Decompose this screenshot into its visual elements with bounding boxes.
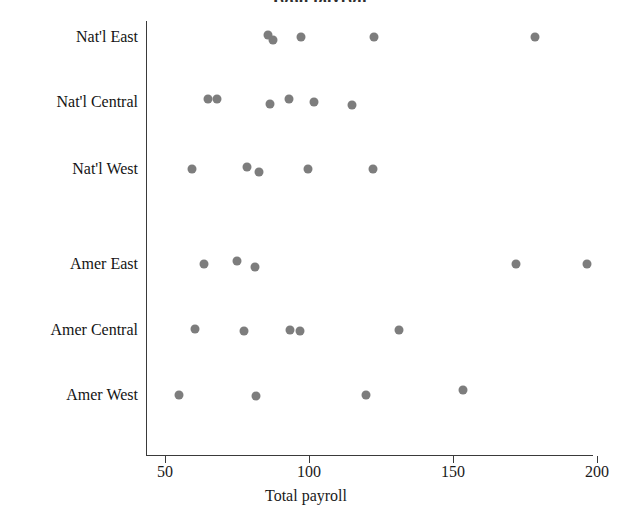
x-axis-title: Total payroll [0, 487, 637, 505]
y-axis-label-1: Nat'l Central [8, 93, 138, 111]
y-axis-label-0: Nat'l East [8, 28, 138, 46]
y-axis-label-2: Nat'l West [8, 160, 138, 178]
data-point [252, 392, 261, 401]
y-axis-label-4: Amer Central [8, 321, 138, 339]
data-point [459, 386, 468, 395]
data-point [347, 101, 356, 110]
y-axis-label-5: Amer West [8, 386, 138, 404]
data-point [284, 95, 293, 104]
data-point [395, 326, 404, 335]
x-tick-label-50: 50 [157, 463, 173, 481]
data-point [512, 260, 521, 269]
data-point [255, 168, 264, 177]
data-point [296, 33, 305, 42]
data-point [251, 263, 260, 272]
x-axis-line [146, 455, 593, 456]
data-point [583, 260, 592, 269]
x-tick-150 [453, 456, 454, 463]
data-point [362, 391, 371, 400]
data-point [530, 33, 539, 42]
data-point [242, 163, 251, 172]
x-tick-label-150: 150 [441, 463, 465, 481]
x-tick-100 [309, 456, 310, 463]
data-point [190, 325, 199, 334]
y-axis-label-3: Amer East [8, 255, 138, 273]
plot-area [147, 21, 593, 455]
data-point [285, 326, 294, 335]
y-axis-category-labels: Nat'l EastNat'l CentralNat'l WestAmer Ea… [0, 0, 138, 519]
x-tick-200 [597, 456, 598, 463]
data-point [295, 327, 304, 336]
data-point [368, 165, 377, 174]
x-tick-50 [165, 456, 166, 463]
data-point [240, 327, 249, 336]
data-point [370, 33, 379, 42]
x-tick-label-200: 200 [585, 463, 609, 481]
data-point [212, 95, 221, 104]
data-point [269, 36, 278, 45]
data-point [303, 165, 312, 174]
data-point [175, 391, 184, 400]
data-point [233, 257, 242, 266]
x-axis-title-text: Total payroll [265, 487, 347, 505]
x-tick-label-100: 100 [297, 463, 321, 481]
data-point [266, 100, 275, 109]
data-point [203, 95, 212, 104]
data-point [310, 98, 319, 107]
dot-plot-chart: Total payroll Nat'l EastNat'l CentralNat… [0, 0, 637, 519]
data-point [188, 165, 197, 174]
data-point [200, 260, 209, 269]
